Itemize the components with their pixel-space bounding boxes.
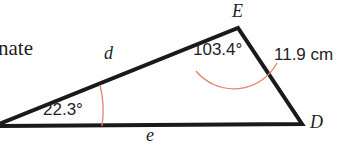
vertex-label-e: E bbox=[232, 2, 243, 20]
triangle-diagram-svg bbox=[0, 0, 347, 148]
side-length-ed: 11.9 cm bbox=[274, 46, 333, 63]
vertex-label-d: D bbox=[310, 113, 323, 131]
side-label-e: e bbox=[146, 126, 154, 144]
angle-arc-left-vertex bbox=[100, 85, 103, 126]
geometry-figure-page: nate E D d e 103.4° 22.3° 11.9 cm bbox=[0, 0, 347, 148]
angle-measure-e: 103.4° bbox=[193, 41, 242, 58]
angle-measure-left-vertex: 22.3° bbox=[43, 101, 83, 118]
cropped-body-text: nate bbox=[0, 38, 33, 59]
side-label-d: d bbox=[104, 44, 113, 62]
